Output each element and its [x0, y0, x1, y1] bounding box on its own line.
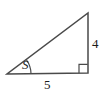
triangle-figure: S 4 5 [0, 0, 103, 94]
triangle-outline [7, 13, 88, 74]
angle-label-s: S [22, 58, 29, 71]
triangle-drawing [0, 0, 103, 94]
right-angle-marker [79, 64, 88, 73]
side-label-base: 5 [44, 78, 51, 91]
side-label-vertical-leg: 4 [92, 37, 99, 50]
